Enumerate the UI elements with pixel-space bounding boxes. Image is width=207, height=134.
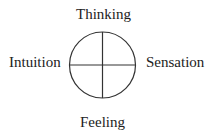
quartered-circle (0, 0, 207, 134)
